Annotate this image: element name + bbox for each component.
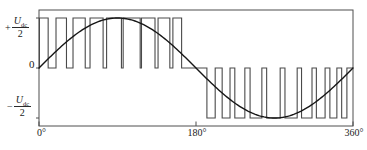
plus-sign: + xyxy=(5,23,11,33)
x-axis-label-180deg: 180° xyxy=(188,127,207,138)
udc-over-2-fraction: Udc 2 xyxy=(12,16,29,39)
x-axis-label-0deg: 0° xyxy=(37,127,46,138)
y-axis-label-plus-udc-half: + Udc 2 xyxy=(5,16,29,39)
y-axis-label-zero: 0 xyxy=(29,59,35,70)
minus-sign: − xyxy=(7,102,13,112)
x-axis-label-360deg: 360° xyxy=(345,127,364,138)
y-axis-label-minus-udc-half: − Udc 2 xyxy=(7,95,31,118)
waveform-canvas xyxy=(0,0,367,150)
udc-over-2-fraction: Udc 2 xyxy=(14,95,31,118)
spwm-waveform-figure: + Udc 2 0 − Udc 2 0° 180° 360° xyxy=(0,0,367,150)
